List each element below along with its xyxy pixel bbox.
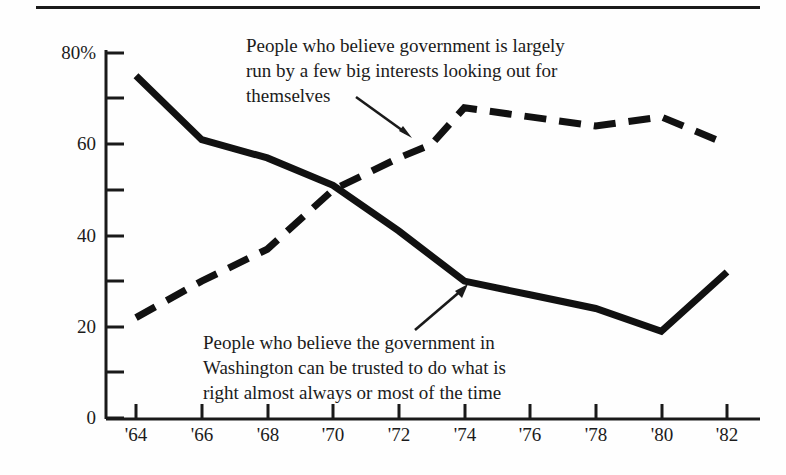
x-axis-tick-label-74: '74 [435,424,495,446]
annotation-label-big-interests: People who believe government is largely… [246,33,586,108]
x-axis-tick-label-76: '76 [500,424,560,446]
y-axis-tick-label-0: 0 [34,407,96,429]
y-axis-tick-label-40: 40 [34,225,96,247]
annotation-label-trust-in-government: People who believe the government in Was… [203,330,563,405]
y-axis-tick-label-60: 60 [34,133,96,155]
x-axis-tick-label-68: '68 [238,424,298,446]
x-axis-tick-label-82: '82 [697,424,757,446]
x-axis-tick-label-70: '70 [303,424,363,446]
x-axis-tick-label-64: '64 [106,424,166,446]
series-line-trust-in-government [136,76,727,331]
series-line-big-interests [136,108,727,318]
chart-figure: 80% 60 40 20 0 '64 '66 '68 '70 '72 '74 '… [0,0,786,475]
y-axis-major-ticks [106,53,124,418]
x-axis-tick-label-80: '80 [632,424,692,446]
x-axis-ticks [136,404,727,419]
y-axis-tick-label-80: 80% [34,42,96,64]
annotation-arrow-trust [415,284,468,330]
x-axis-tick-label-66: '66 [172,424,232,446]
y-axis-tick-label-20: 20 [34,316,96,338]
x-axis-tick-label-72: '72 [369,424,429,446]
x-axis-tick-label-78: '78 [566,424,626,446]
